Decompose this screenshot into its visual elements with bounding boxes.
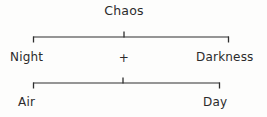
node-label-chaos: Chaos [104,5,143,18]
node-label-darkness: Darkness [196,51,254,63]
node-label-air: Air [18,96,35,108]
chaos-derivation-diagram: Chaos Night + Darkness Air Day [0,0,267,117]
bracket-top [33,32,229,43]
bracket-bottom [33,78,220,89]
node-label-day: Day [203,96,227,108]
operator-label-plus: + [119,52,129,64]
node-label-night: Night [10,51,43,63]
